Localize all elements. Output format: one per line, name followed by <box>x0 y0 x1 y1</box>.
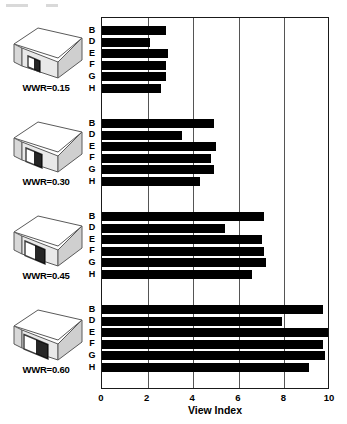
bar <box>102 224 225 233</box>
x-tick-label: 8 <box>271 392 295 403</box>
x-tick-label: 6 <box>226 392 250 403</box>
category-label: H <box>85 177 99 186</box>
bar <box>102 84 161 93</box>
bar <box>102 212 264 221</box>
category-label: G <box>85 72 99 81</box>
category-label: E <box>85 49 99 58</box>
bar <box>102 351 325 360</box>
category-label: F <box>85 60 99 69</box>
x-tick-label: 0 <box>89 392 113 403</box>
category-label: G <box>85 165 99 174</box>
category-label: G <box>85 258 99 267</box>
bar <box>102 165 214 174</box>
room-isometric-icon <box>8 206 88 270</box>
bar <box>102 305 323 314</box>
x-tick-label: 4 <box>180 392 204 403</box>
thumbnail-caption: WWR=0.45 <box>0 270 92 281</box>
room-isometric-icon <box>8 300 88 364</box>
room-isometric-icon <box>8 18 88 82</box>
category-label: E <box>85 142 99 151</box>
bar <box>102 49 168 58</box>
bar <box>102 235 262 244</box>
thumbnail-cell: WWR=0.45 <box>0 204 96 298</box>
x-tick-label: 2 <box>135 392 159 403</box>
category-label: H <box>85 270 99 279</box>
category-label: B <box>85 212 99 221</box>
bar <box>102 270 252 279</box>
bar <box>102 26 166 35</box>
category-label: D <box>85 130 99 139</box>
category-label: E <box>85 235 99 244</box>
bar <box>102 177 200 186</box>
category-label: F <box>85 339 99 348</box>
scan-artifact <box>46 4 58 7</box>
category-label: H <box>85 363 99 372</box>
plot-area <box>101 17 329 389</box>
category-label: F <box>85 153 99 162</box>
thumbnail-cell: WWR=0.60 <box>0 298 96 392</box>
category-label: B <box>85 119 99 128</box>
x-axis-title: View Index <box>101 404 329 416</box>
category-label: D <box>85 223 99 232</box>
scan-artifact <box>6 4 28 7</box>
category-label: G <box>85 351 99 360</box>
bar <box>102 328 328 337</box>
thumbnail-caption: WWR=0.60 <box>0 364 92 375</box>
bar <box>102 154 211 163</box>
bar <box>102 131 182 140</box>
thumbnail-column: WWR=0.15 WWR=0.30 WWR=0.45 <box>0 16 96 391</box>
bar <box>102 247 264 256</box>
chart-figure: WWR=0.15 WWR=0.30 WWR=0.45 <box>0 0 347 424</box>
category-labels: BDEFGHBDEFGHBDEFGHBDEFGH <box>85 17 99 389</box>
thumbnail-caption: WWR=0.30 <box>0 176 92 187</box>
category-label: H <box>85 84 99 93</box>
thumbnail-cell: WWR=0.30 <box>0 110 96 204</box>
thumbnail-cell: WWR=0.15 <box>0 16 96 110</box>
thumbnail-caption: WWR=0.15 <box>0 82 92 93</box>
bar <box>102 119 214 128</box>
bar <box>102 258 266 267</box>
bar <box>102 317 282 326</box>
category-label: B <box>85 26 99 35</box>
bar <box>102 72 166 81</box>
category-label: F <box>85 246 99 255</box>
bar <box>102 363 309 372</box>
x-tick-label: 10 <box>317 392 341 403</box>
category-label: B <box>85 305 99 314</box>
room-isometric-icon <box>8 112 88 176</box>
bar <box>102 142 216 151</box>
category-label: D <box>85 316 99 325</box>
category-label: E <box>85 328 99 337</box>
bar <box>102 38 150 47</box>
bar <box>102 61 166 70</box>
bar <box>102 340 323 349</box>
category-label: D <box>85 37 99 46</box>
